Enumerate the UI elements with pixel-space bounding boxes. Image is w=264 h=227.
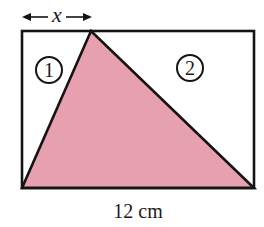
region-1-marker: 1 [36,57,62,83]
arrow-right-icon [83,13,92,21]
region-2-marker: 2 [177,55,203,81]
region-2-label: 2 [185,57,195,79]
dimension-x-label: x [51,2,62,27]
region-1-label: 1 [44,59,54,81]
shaded-triangle [22,31,254,188]
arrow-left-icon [22,13,31,21]
dimension-x: x [22,2,92,27]
geometry-diagram: 1 2 x 12 cm [0,0,264,227]
dimension-base-label: 12 cm [113,200,163,222]
